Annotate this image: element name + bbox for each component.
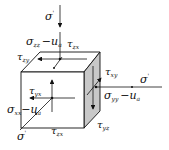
top-dot	[53, 67, 55, 69]
front-load-label: σ'	[17, 129, 27, 143]
side-center-dot	[95, 86, 98, 89]
right-shear-z-label: τyz	[97, 119, 110, 132]
top-normal-label: σzz−ua	[26, 35, 62, 48]
top-shear-y-label: τzy	[17, 51, 30, 64]
side-dot	[131, 86, 133, 88]
front-normal-label: σxx−ua	[7, 103, 42, 116]
front-center-dot	[51, 97, 54, 100]
right-shear-x-label: τxy	[105, 66, 118, 79]
top-shear-x-label: τzx	[67, 38, 80, 50]
top-load-label: σ'	[45, 9, 55, 23]
stress-cube-diagram: σ' σzz−ua τzx τzy τxy σ' σyy−ua τyz τyx …	[0, 0, 169, 150]
right-load-label: σ'	[140, 72, 150, 86]
right-normal-label: σyy−ua	[104, 89, 141, 103]
